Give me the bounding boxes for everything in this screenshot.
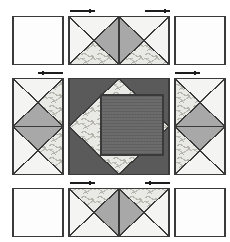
hourglass-unit-right [175, 79, 225, 175]
hourglass-square-right-bottom-half [175, 127, 225, 175]
hourglass-square-bottom-right-half [119, 189, 169, 237]
diagram-canvas [0, 0, 230, 242]
plain-square-top-right [175, 17, 225, 65]
plain-square-bottom-right [175, 189, 225, 237]
hourglass-square-bottom-left-half [69, 189, 119, 237]
plain-square-bottom-left [13, 189, 63, 237]
hourglass-unit-bottom [69, 189, 169, 237]
center-unit [69, 79, 169, 175]
plain-square-top-left [13, 17, 63, 65]
hourglass-unit-left [13, 79, 63, 175]
hourglass-square-right-top-half [175, 79, 225, 127]
middle-row [13, 79, 225, 175]
hourglass-square-top-right-half [119, 17, 169, 65]
hourglass-square-left-bottom-half [13, 127, 63, 175]
top-row [13, 17, 225, 65]
hourglass-unit-top [69, 17, 169, 65]
hourglass-square-left-top-half [13, 79, 63, 127]
hourglass-square-top-left-half [69, 17, 119, 65]
center-inner-square [101, 95, 163, 155]
bottom-row [13, 189, 225, 237]
